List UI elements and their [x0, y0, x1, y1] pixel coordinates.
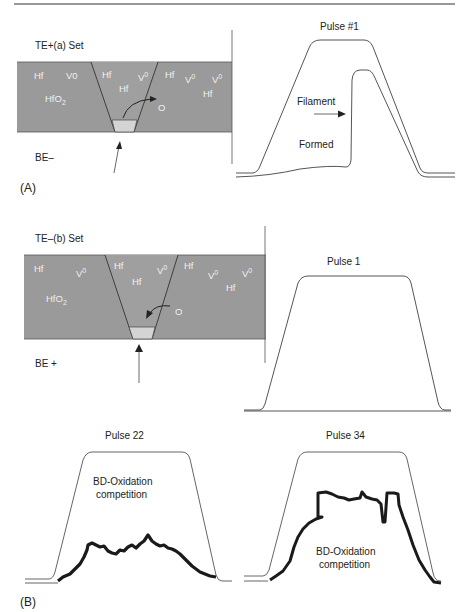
species-label: Hf [132, 276, 142, 287]
annotation-formed: Formed [299, 139, 333, 150]
species-label: Hf [226, 282, 236, 293]
annotation-line-1: BD-Oxidation [316, 546, 375, 557]
species-label: Hf [184, 260, 194, 271]
panel-b-schematic: TE–(b) Set Hf V0 Hf Hf V0 Hf V0 V0 Hf Hf… [24, 233, 266, 383]
oxygen-label: O [158, 102, 165, 113]
species-label: V0 [66, 70, 78, 81]
annotation-line-2: competition [96, 489, 147, 500]
arrow-right-icon [338, 111, 346, 118]
pulse-title: Pulse #1 [320, 21, 359, 32]
pulse-34-plot: Pulse 34 BD-Oxidation competition [244, 430, 441, 583]
bottom-electrode-label: BE– [35, 152, 54, 163]
panel-a-label: (A) [20, 181, 36, 195]
voltage-pulse [25, 452, 232, 581]
species-label: Hf [114, 260, 124, 271]
voltage-pulse [244, 276, 451, 410]
annotation-filament: Filament [297, 96, 336, 107]
figure-canvas: TE+(a) Set Hf V0 Hf V0 Hf Hf V0 V0 Hf Hf… [0, 0, 467, 612]
bottom-electrode-label: BE + [35, 358, 57, 369]
annotation-line-1: BD-Oxidation [93, 476, 152, 487]
pulse-1-panel-a-plot: Pulse #1 Filament Formed [232, 21, 455, 177]
panel-b-title: TE–(b) Set [35, 233, 84, 244]
panel-a-title: TE+(a) Set [35, 40, 84, 51]
pulse-1-plot: Pulse 1 [244, 226, 451, 411]
current-trace [236, 70, 455, 177]
filament-plug [129, 327, 155, 339]
pulse-title: Pulse 34 [326, 430, 365, 441]
species-label: Hf [203, 88, 213, 99]
voltage-pulse [236, 40, 455, 173]
current-trace [58, 535, 216, 581]
species-label: Hf [34, 263, 44, 274]
oxygen-label: O [175, 306, 182, 317]
filament-plug [112, 120, 137, 132]
pulse-title: Pulse 1 [327, 256, 361, 267]
species-label: Hf [165, 69, 175, 80]
panel-b-label: (B) [20, 595, 36, 609]
species-label: Hf [34, 70, 44, 81]
pulse-22-plot: Pulse 22 BD-Oxidation competition (B) [20, 430, 232, 609]
panel-a-schematic: TE+(a) Set Hf V0 Hf V0 Hf Hf V0 V0 Hf Hf… [17, 40, 232, 195]
annotation-line-2: competition [319, 559, 370, 570]
species-label: Hf [119, 83, 129, 94]
species-label: Hf [102, 69, 112, 80]
pulse-title: Pulse 22 [105, 430, 144, 441]
